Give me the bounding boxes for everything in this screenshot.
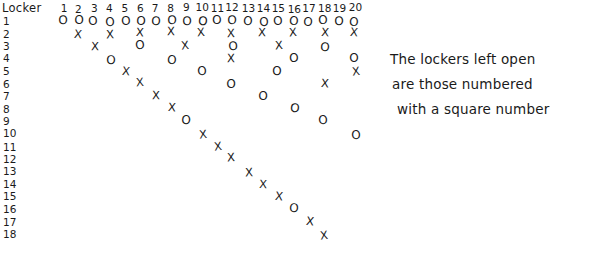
cell-r1-c13-open: O [243, 15, 253, 27]
row-header-16: 16 [3, 203, 16, 215]
cell-r2-c10-closed: X [196, 27, 205, 39]
cell-r8-c8-closed: X [168, 102, 177, 114]
row-header-2: 2 [3, 28, 10, 40]
cell-r2-c8-closed: X [167, 27, 175, 39]
cell-r1-c19-open: O [334, 15, 344, 27]
column-header-10: 10 [196, 1, 209, 13]
cell-r3-c3-closed: X [91, 41, 99, 53]
cell-r8-c16-open: O [290, 101, 301, 114]
row-header-13: 13 [3, 165, 16, 177]
cell-r1-c7-open: O [150, 14, 160, 27]
column-header-15: 15 [272, 2, 285, 14]
cell-r4-c4-open: O [106, 54, 116, 66]
row-header-8: 8 [3, 103, 10, 115]
row-header-9: 9 [3, 115, 10, 127]
row-header-12: 12 [3, 153, 16, 165]
row-header-4: 4 [3, 52, 10, 64]
column-header-18: 18 [318, 2, 331, 14]
cell-r13-c13-closed: X [245, 167, 253, 179]
cell-r6-c6-closed: X [136, 77, 145, 89]
cell-r3-c6-open: O [135, 39, 146, 52]
row-header-1: 1 [3, 15, 10, 27]
column-header-11: 11 [211, 2, 224, 14]
cell-r1-c5-open: O [121, 14, 131, 27]
cell-r2-c14-closed: X [258, 28, 266, 40]
column-header-13: 13 [242, 2, 255, 14]
cell-r2-c16-closed: X [288, 27, 297, 39]
cell-r12-c12-closed: X [227, 152, 236, 164]
cell-r10-c20-open: O [351, 128, 361, 140]
cell-r1-c1-open: O [58, 14, 68, 26]
row-header-7: 7 [3, 90, 10, 102]
cell-r11-c11-closed: X [213, 141, 222, 153]
cell-r7-c7-closed: X [152, 90, 160, 102]
column-header-14: 14 [257, 2, 270, 14]
cell-r1-c15-open: O [273, 14, 283, 27]
cell-r1-c9-open: O [182, 15, 192, 27]
locker-grid: Locker 1234567891011121314151617181920 1… [0, 0, 380, 258]
column-header-3: 3 [91, 2, 98, 14]
row-header-10: 10 [3, 127, 16, 139]
column-header-19: 19 [333, 2, 346, 14]
cell-r1-c3-open: O [88, 15, 98, 28]
annotation-note: The lockers left openare those numberedw… [390, 47, 596, 122]
cell-r2-c20-closed: X [350, 27, 359, 39]
cell-r17-c17-closed: X [305, 216, 314, 228]
cell-r10-c10-closed: X [198, 129, 207, 141]
row-header-11: 11 [3, 141, 16, 153]
cell-r16-c16-open: O [289, 202, 299, 215]
row-header-5: 5 [3, 65, 10, 77]
cell-r15-c15-closed: X [274, 191, 283, 203]
cell-r1-c17-open: O [303, 15, 313, 28]
cell-r2-c2-closed: X [73, 28, 82, 40]
row-header-15: 15 [3, 190, 16, 202]
annotation-line-2: are those numbered [390, 72, 596, 97]
row-header-6: 6 [3, 78, 10, 90]
column-header-7: 7 [152, 2, 159, 14]
cell-r7-c14-open: O [258, 90, 268, 102]
cell-r3-c15-closed: X [275, 40, 284, 52]
cell-r14-c14-closed: X [259, 179, 267, 191]
cell-r6-c18-closed: X [321, 78, 330, 90]
cell-r18-c18-closed: X [320, 229, 329, 241]
column-header-20: 20 [349, 1, 362, 13]
cell-r9-c18-open: O [318, 114, 328, 127]
cell-r6-c12-open: O [226, 78, 236, 90]
cell-r1-c11-open: O [212, 14, 222, 26]
cell-r5-c20-closed: X [351, 66, 360, 78]
grid-corner-label: Locker [2, 1, 41, 15]
cell-r5-c10-open: O [196, 64, 206, 77]
cell-r3-c9-closed: X [181, 40, 190, 52]
column-header-4: 4 [106, 2, 113, 14]
cell-r4-c16-open: O [289, 52, 299, 64]
annotation-line-3: with a square number [390, 97, 596, 122]
row-header-17: 17 [3, 216, 16, 228]
cell-r2-c4-closed: X [106, 29, 114, 41]
column-header-5: 5 [121, 2, 128, 14]
column-header-16: 16 [288, 3, 301, 15]
cell-r5-c5-closed: X [122, 66, 131, 78]
cell-r2-c18-closed: X [321, 27, 329, 39]
cell-r4-c20-open: O [349, 52, 358, 64]
cell-r1-c2-open: O [74, 14, 84, 26]
cell-r5-c15-open: O [272, 65, 281, 77]
row-header-3: 3 [3, 40, 10, 52]
cell-r3-c18-open: O [320, 41, 330, 54]
column-header-9: 9 [183, 1, 190, 13]
cell-r1-c12-open: O [227, 14, 237, 26]
cell-r9-c9-open: O [180, 114, 191, 127]
column-header-17: 17 [302, 2, 315, 14]
column-header-12: 12 [225, 1, 238, 13]
cell-r4-c8-open: O [167, 54, 177, 66]
row-header-14: 14 [3, 178, 16, 190]
row-header-18: 18 [3, 228, 16, 240]
annotation-line-1: The lockers left open [390, 47, 596, 72]
cell-r4-c12-closed: X [227, 54, 235, 66]
column-header-6: 6 [137, 2, 144, 14]
